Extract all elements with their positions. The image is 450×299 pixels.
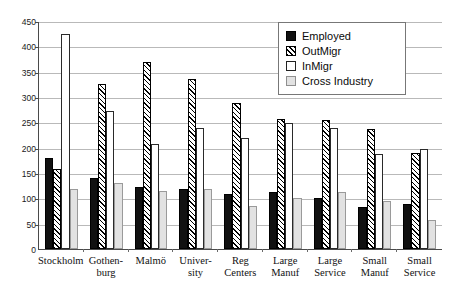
diagonal-hatch-swatch [286, 46, 296, 56]
bar-cross-industry [383, 201, 391, 249]
bar-group [129, 22, 174, 249]
bar-employed [314, 198, 322, 249]
bar-cross-industry [204, 189, 212, 249]
bar-outmigr [53, 169, 61, 249]
bar-outmigr [367, 129, 375, 249]
y-tick-label-400: 400 [2, 43, 36, 52]
bar-outmigr [188, 79, 196, 249]
bar-employed [179, 189, 187, 249]
bar-outmigr [411, 153, 419, 249]
x-axis-label: Small Service [397, 253, 442, 299]
legend-item: OutMigr [286, 43, 399, 58]
bar-inmigr [196, 128, 204, 249]
light-gray-swatch [286, 76, 296, 86]
x-axis-label: Malmö [128, 253, 173, 299]
x-axis-label: Large Manuf [263, 253, 308, 299]
bar-employed [358, 207, 366, 249]
y-tick-label-350: 350 [2, 69, 36, 78]
bar-employed [224, 194, 232, 249]
bar-outmigr [143, 62, 151, 249]
bar-employed [403, 204, 411, 249]
y-tick-label-100: 100 [2, 195, 36, 204]
bar-employed [135, 187, 143, 249]
chart-legend: EmployedOutMigrInMigrCross Industry [278, 22, 406, 95]
x-axis-label: Large Service [308, 253, 353, 299]
y-tick-label-50: 50 [2, 221, 36, 230]
bar-employed [269, 192, 277, 249]
bar-inmigr [61, 34, 69, 249]
bar-inmigr [330, 128, 338, 249]
bar-inmigr [241, 138, 249, 249]
legend-item: Employed [286, 28, 399, 43]
bar-inmigr [375, 154, 383, 249]
y-tick-label-250: 250 [2, 119, 36, 128]
legend-item-label: Cross Industry [302, 75, 373, 87]
bar-chart: 050100150200250300350400450 StockholmGot… [0, 0, 450, 299]
x-axis-label: Reg Centers [218, 253, 263, 299]
bar-cross-industry [293, 198, 301, 249]
bar-cross-industry [70, 189, 78, 249]
y-tick-label-0: 0 [2, 246, 36, 255]
x-axis-label: Stockholm [38, 253, 84, 299]
legend-item: InMigr [286, 58, 399, 73]
bar-cross-industry [428, 220, 436, 249]
bar-inmigr [285, 123, 293, 249]
y-tick-label-150: 150 [2, 170, 36, 179]
bar-outmigr [98, 84, 106, 249]
bar-employed [90, 178, 98, 249]
bar-cross-industry [338, 192, 346, 249]
x-axis-category-labels: StockholmGothen- burgMalmöUniver- sityRe… [38, 253, 442, 299]
bar-outmigr [322, 120, 330, 249]
x-axis-label: Univer- sity [173, 253, 218, 299]
solid-black-swatch [286, 31, 296, 41]
bar-group [39, 22, 84, 249]
bar-cross-industry [159, 191, 167, 249]
x-axis-label: Small Manuf [352, 253, 397, 299]
legend-item-label: InMigr [302, 60, 333, 72]
legend-item-label: Employed [302, 30, 351, 42]
bar-inmigr [420, 149, 428, 249]
bar-inmigr [106, 111, 114, 249]
bar-employed [45, 158, 53, 249]
y-tick-label-200: 200 [2, 145, 36, 154]
bar-inmigr [151, 144, 159, 249]
bar-cross-industry [114, 183, 122, 249]
bar-group [173, 22, 218, 249]
y-tick-label-450: 450 [2, 18, 36, 27]
white-outline-swatch [286, 61, 296, 71]
y-tick-label-300: 300 [2, 94, 36, 103]
bar-outmigr [232, 103, 240, 249]
bar-group [218, 22, 263, 249]
legend-item-label: OutMigr [302, 45, 341, 57]
bar-cross-industry [249, 206, 257, 249]
x-axis-label: Gothen- burg [84, 253, 129, 299]
bar-group [84, 22, 129, 249]
bar-outmigr [277, 119, 285, 249]
legend-item: Cross Industry [286, 73, 399, 88]
